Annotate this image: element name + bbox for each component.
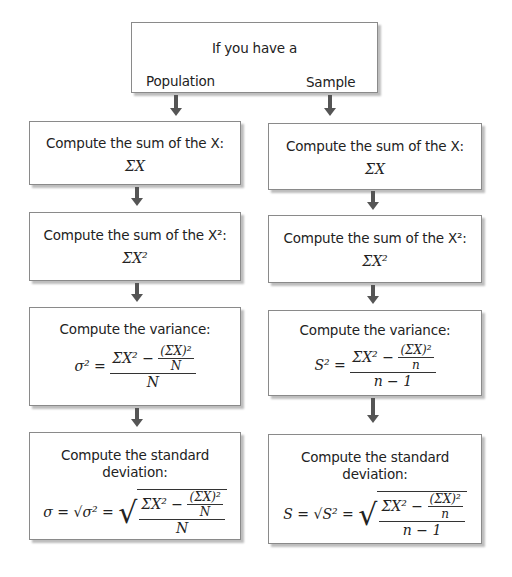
denominator: n − 1 [379,522,464,538]
arrow-down-icon [367,191,379,215]
step-label: Compute the standard deviation: [269,449,481,483]
std-dev-formula: σ = √σ² = √ ΣX² − (ΣX)²N N [30,489,240,536]
denominator: n − 1 [350,373,435,389]
formula: ΣX² [269,253,481,269]
population-sum-x2-box: Compute the sum of the X²: ΣX² [29,212,241,281]
inner-numerator: (ΣX)² [158,344,193,359]
inner-denominator: n [428,507,463,521]
formula-lhs: S = √S² = [283,506,354,522]
population-sum-x-box: Compute the sum of the X: ΣX [29,121,241,185]
numerator-term: ΣX² − [352,349,394,365]
step-label: Compute the sum of the X: [30,135,240,152]
arrow-down-icon [131,408,143,432]
population-std-dev-box: Compute the standard deviation: σ = √σ² … [29,432,241,540]
arrow-down-icon [131,187,143,211]
formula: ΣX² [30,250,240,266]
arrow-down-icon [367,285,379,309]
start-box: If you have a Population Sample [131,22,378,93]
denominator: N [139,520,224,536]
inner-numerator: (ΣX)² [398,343,433,358]
numerator-term: ΣX² − [112,350,154,366]
variance-formula: S² = ΣX² − (ΣX)²n n − 1 [269,343,481,389]
arrow-down-icon [131,283,143,307]
sample-label: Sample [306,74,355,91]
sample-std-dev-box: Compute the standard deviation: S = √S² … [268,434,482,544]
sqrt-icon: √ [358,497,377,532]
population-label: Population [146,73,215,90]
formula-lhs: σ² = [74,358,105,374]
sqrt-icon: √ [118,495,137,530]
std-dev-formula: S = √S² = √ ΣX² − (ΣX)²n n − 1 [269,491,481,538]
inner-denominator: N [158,359,193,373]
variance-formula: σ² = ΣX² − (ΣX)²N N [30,344,240,390]
formula: ΣX [269,161,481,177]
formula-lhs: σ = √σ² = [43,504,113,520]
inner-denominator: n [398,358,433,372]
start-title: If you have a [132,40,377,57]
numerator-term: ΣX² − [141,496,183,512]
fraction: ΣX² − (ΣX)²N N [139,490,224,536]
sample-sum-x-box: Compute the sum of the X: ΣX [268,123,482,190]
fraction: ΣX² − (ΣX)²n n − 1 [350,343,435,389]
inner-denominator: N [187,505,222,519]
step-label: Compute the sum of the X²: [30,227,240,244]
arrow-down-icon [324,95,336,119]
denominator: N [110,374,195,390]
step-label: Compute the variance: [30,321,240,338]
fraction: ΣX² − (ΣX)²N N [110,344,195,390]
inner-numerator: (ΣX)² [428,492,463,507]
step-label: Compute the sum of the X: [269,138,481,155]
numerator-term: ΣX² − [381,498,423,514]
step-label: Compute the variance: [269,322,481,339]
sample-sum-x2-box: Compute the sum of the X²: ΣX² [268,215,482,283]
sample-variance-box: Compute the variance: S² = ΣX² − (ΣX)²n … [268,310,482,396]
step-label: Compute the standard deviation: [30,447,240,481]
arrow-down-icon [170,95,182,119]
population-variance-box: Compute the variance: σ² = ΣX² − (ΣX)²N … [29,307,241,406]
formula-lhs: S² = [314,357,345,373]
formula: ΣX [30,158,240,174]
inner-numerator: (ΣX)² [187,490,222,505]
step-label: Compute the sum of the X²: [269,230,481,247]
arrow-down-icon [367,398,379,428]
fraction: ΣX² − (ΣX)²n n − 1 [379,492,464,538]
